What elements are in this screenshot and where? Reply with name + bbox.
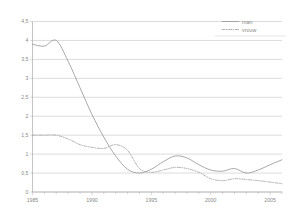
x-axis-tickmarks xyxy=(33,192,283,195)
y-tick-label: 4,5 xyxy=(21,18,28,24)
x-tick-label: 2000 xyxy=(205,197,217,203)
y-tick-label: 1 xyxy=(26,151,29,157)
x-tick-label: 1985 xyxy=(27,197,39,203)
y-tick-label: 4 xyxy=(26,37,29,43)
y-tick-label: 3 xyxy=(26,75,29,81)
legend-label-vrouw: vrouw xyxy=(242,27,256,33)
x-axis-tick-labels: 19851990199520002005 xyxy=(27,197,276,203)
x-tick-label: 2005 xyxy=(264,197,276,203)
line-chart: 00,511,522,533,544,5 1985199019952000200… xyxy=(0,0,290,219)
series-line-vrouw xyxy=(33,135,283,184)
y-tick-label: 0,5 xyxy=(21,170,28,176)
y-tick-label: 1,5 xyxy=(21,132,28,138)
legend-label-man: man xyxy=(242,19,253,25)
y-axis-tick-labels: 00,511,522,533,544,5 xyxy=(21,18,28,195)
x-tick-label: 1995 xyxy=(146,197,158,203)
y-tick-label: 2 xyxy=(26,113,29,119)
series-line-man xyxy=(33,40,283,173)
y-tick-label: 0 xyxy=(26,189,29,195)
chart-canvas: 00,511,522,533,544,5 1985199019952000200… xyxy=(0,0,290,219)
legend: man vrouw xyxy=(215,19,286,37)
x-tick-label: 1990 xyxy=(86,197,98,203)
y-tick-label: 2,5 xyxy=(21,94,28,100)
y-tick-label: 3,5 xyxy=(21,56,28,62)
